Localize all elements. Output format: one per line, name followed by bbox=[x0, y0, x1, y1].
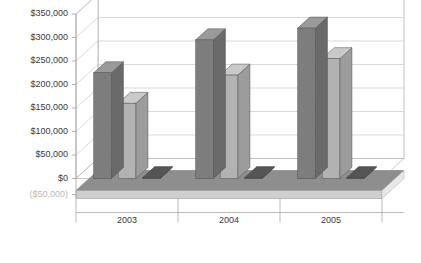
bar-chart-3d: $350,000$300,000$250,000$200,000$150,000… bbox=[0, 0, 421, 263]
y-axis-tick-label: $100,000 bbox=[30, 126, 68, 136]
y-axis-tick-label: $50,000 bbox=[35, 149, 68, 159]
bar-2003-series-1 bbox=[94, 62, 124, 179]
x-axis-tick-label: 2003 bbox=[117, 215, 137, 225]
bar-2004-series-1 bbox=[196, 29, 226, 179]
bar-2005-series-1 bbox=[298, 17, 328, 178]
y-axis-tick-label: $250,000 bbox=[30, 55, 68, 65]
y-axis-tick-label: $350,000 bbox=[30, 8, 68, 18]
x-axis-tick-label: 2004 bbox=[219, 215, 239, 225]
y-axis-tick-label: $0 bbox=[58, 173, 68, 183]
y-axis-tick-label: $200,000 bbox=[30, 79, 68, 89]
x-axis-tick-label: 2005 bbox=[321, 215, 341, 225]
y-axis-tick-label: $150,000 bbox=[30, 102, 68, 112]
y-axis-tick-label: $300,000 bbox=[30, 32, 68, 42]
chart-container: $350,000$300,000$250,000$200,000$150,000… bbox=[0, 0, 421, 263]
y-axis-tick-label: ($50,000) bbox=[29, 189, 68, 199]
